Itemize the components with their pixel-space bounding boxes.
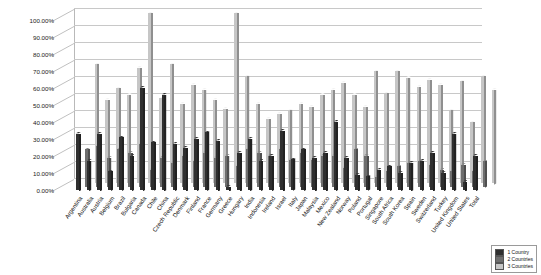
bar [334,122,337,190]
y-tick-label: 90.00% [33,34,54,41]
bar [119,137,122,190]
y-tick-label: 50.00% [33,102,54,109]
bar [452,134,455,190]
y-tick-label: 30.00% [33,136,54,143]
bar [344,158,347,190]
bar [374,71,377,183]
bar [492,90,495,184]
gridline [74,42,482,43]
y-tick-label: 100.00% [30,17,54,24]
legend-label-1-country: 1 Country [507,249,529,255]
bar [398,173,401,190]
bar [420,161,423,190]
y-tick-label: 10.00% [33,170,54,177]
legend-item: 1 Country [495,249,533,255]
bar [76,134,79,190]
bar [216,141,219,190]
bar [97,134,100,190]
legend-item: 2 Countries [495,256,533,262]
bar [183,148,186,191]
bar [366,176,369,190]
bar [194,139,197,190]
bar [237,153,240,190]
y-tick-label: 20.00% [33,153,54,160]
bar [151,142,154,190]
gridline [74,76,482,77]
bar [301,149,304,190]
bar [280,131,283,191]
bar [259,161,262,190]
legend-swatch-3-countries [495,263,504,270]
bar [269,156,272,190]
bar [355,175,358,190]
bar [225,156,228,187]
bar [108,171,111,190]
chart-legend: 1 Country 2 Countries 3 Countries [491,245,537,273]
legend-swatch-1-country [495,249,504,256]
bar [130,156,133,190]
legend-swatch-2-countries [495,256,504,263]
bar [291,159,294,190]
bar [226,187,229,190]
bar [323,153,326,190]
bar [140,88,143,190]
bar [473,156,476,190]
bar [463,182,466,191]
bar [387,166,390,190]
bar [441,173,444,190]
bar [87,161,90,190]
y-tick-label: 80.00% [33,51,54,58]
bar [205,132,208,190]
plot-area: 0.00%10.00%20.00%30.00%40.00%50.00%60.00… [52,8,482,190]
bar [409,163,412,190]
chart-container: 0.00%10.00%20.00%30.00%40.00%50.00%60.00… [0,0,541,275]
legend-label-3-countries: 3 Countries [507,263,533,269]
bar [312,158,315,190]
y-tick-label: 0.00% [36,187,54,194]
bar [162,95,165,190]
gridline [74,59,482,60]
bar [430,153,433,190]
gridline [74,25,482,26]
y-tick-label: 70.00% [33,68,54,75]
legend-label-2-countries: 2 Countries [507,256,533,262]
y-tick-label: 40.00% [33,119,54,126]
bar [173,144,176,190]
bar [248,139,251,190]
bar [377,170,380,190]
y-tick-label: 60.00% [33,85,54,92]
bar [483,161,486,187]
gridline [74,8,482,9]
legend-item: 3 Countries [495,263,533,269]
